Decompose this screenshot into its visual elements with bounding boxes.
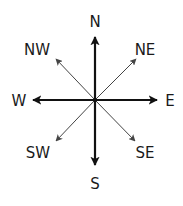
label-south: S	[90, 175, 100, 193]
arrow-ne-icon	[95, 59, 136, 100]
label-northeast: NE	[135, 41, 156, 59]
compass-rose: N E S W NE SE SW NW	[0, 0, 183, 206]
label-northwest: NW	[24, 41, 50, 59]
label-west: W	[12, 92, 27, 110]
label-southeast: SE	[136, 144, 155, 162]
label-north: N	[89, 13, 100, 31]
label-southwest: SW	[26, 144, 51, 162]
arrow-se-icon	[95, 100, 135, 141]
arrow-nw-icon	[56, 59, 95, 100]
label-east: E	[165, 92, 174, 110]
center-dot-icon	[93, 98, 97, 102]
arrow-sw-icon	[56, 100, 95, 141]
direction-labels: N E S W NE SE SW NW	[12, 13, 175, 193]
